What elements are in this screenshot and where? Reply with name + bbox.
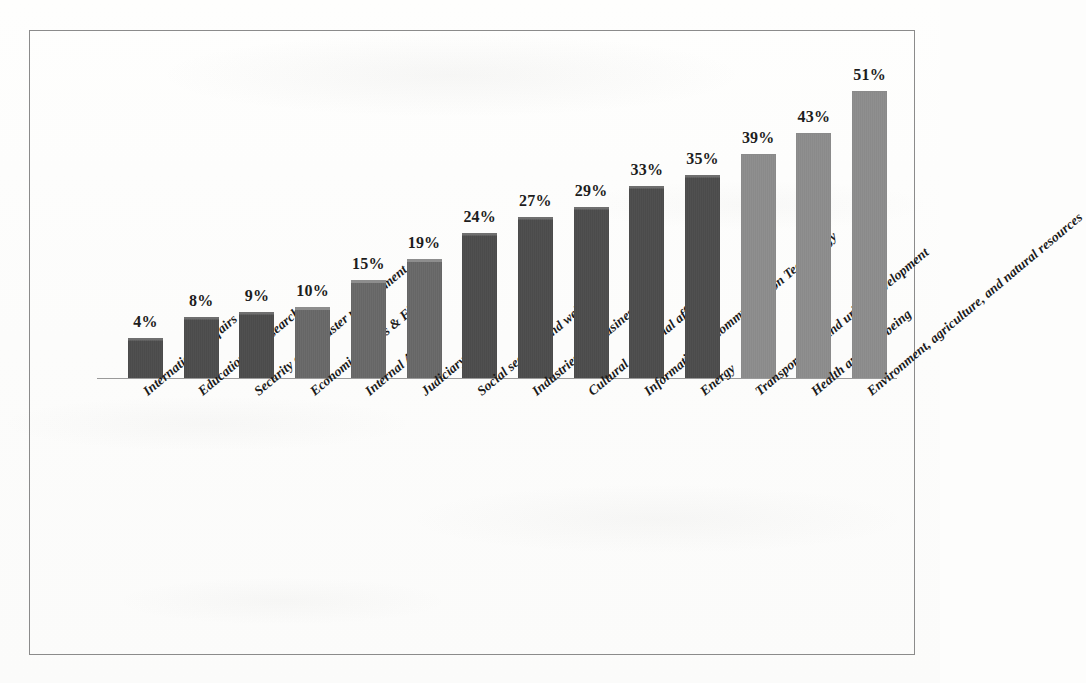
bar-value-label: 29% [556,182,626,200]
bar [351,280,386,378]
x-axis-category-label: Environment, agriculture, and natural re… [864,209,1086,399]
bar [852,91,887,378]
bar [407,259,442,378]
bar [295,307,330,379]
bar-value-label: 15% [333,255,403,273]
bar-value-label: 19% [389,234,459,252]
bar-value-label: 24% [445,208,515,226]
bar [574,207,609,378]
bar-value-label: 10% [278,282,348,300]
bar [239,312,274,378]
bar [796,133,831,378]
bar-value-label: 39% [723,129,793,147]
bar-value-label: 51% [835,66,905,84]
bar-value-label: 43% [779,108,849,126]
bar-value-label: 35% [668,150,738,168]
bar [685,175,720,378]
bar [741,154,776,378]
bar-value-label: 4% [111,313,181,331]
bar [184,317,219,378]
bar [518,217,553,378]
bar [462,233,497,378]
bar [629,186,664,378]
